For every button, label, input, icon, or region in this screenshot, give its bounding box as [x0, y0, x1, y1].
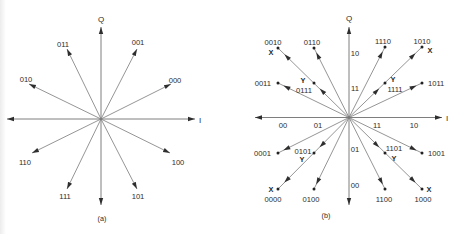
point-marker: X: [269, 185, 274, 194]
point-1001: [421, 152, 424, 155]
point-marker: Y: [392, 154, 397, 163]
q-axis-gray-code: 10: [351, 49, 359, 58]
q-axis-label: Q: [98, 15, 104, 24]
symbol-label: 100: [172, 158, 185, 167]
i-axis-gray-code: 10: [410, 121, 418, 130]
constellation-figure: Q I 000 001 011 010 110 111 101 100 (a): [0, 0, 469, 234]
point-label: 1010: [414, 37, 431, 46]
symbol-label: 001: [132, 38, 145, 47]
point-0001: [277, 152, 280, 155]
vector-110: [32, 119, 101, 153]
i-axis-label: I: [199, 116, 201, 125]
point-label: 1100: [376, 195, 392, 204]
point-1100: [384, 188, 387, 191]
symbol-label: 110: [19, 158, 31, 167]
symbol-label: 111: [59, 192, 71, 201]
point-label: 1011: [428, 79, 444, 88]
point-label: 1001: [428, 149, 445, 158]
point-label: 1000: [415, 195, 432, 204]
panel-a-axes: [7, 27, 195, 205]
arrowhead-icon: [378, 177, 385, 185]
panel-a-caption: (a): [98, 214, 107, 223]
q-axis-label: Q: [346, 14, 352, 23]
i-axis-gray-code: 11: [373, 121, 381, 130]
arrowhead-icon: [314, 177, 321, 185]
point-1000: [421, 188, 424, 191]
vector-100: [101, 119, 170, 153]
vector-010: [29, 84, 101, 119]
point-label: 1111: [387, 85, 402, 94]
q-axis-gray-code: 11: [351, 84, 359, 93]
panel-b-16qam-constellation: Q I 00 01 11 10 10 11 01 00 0010 X 0110 …: [254, 14, 448, 220]
point-0011: [277, 82, 280, 85]
point-marker: Y: [391, 75, 396, 84]
point-marker: X: [428, 46, 433, 55]
panel-a-8psk-constellation: Q I 000 001 011 010 110 111 101 100 (a): [7, 15, 201, 223]
i-axis-gray-code: 00: [279, 121, 287, 130]
symbol-label: 010: [20, 75, 33, 84]
point-label: 0111: [296, 86, 312, 95]
point-label: 0010: [265, 38, 282, 47]
point-label: 1101: [386, 144, 402, 153]
vector-000: [101, 84, 171, 119]
point-label: 0001: [254, 149, 271, 158]
point-label: 0011: [255, 79, 271, 88]
point-label: 0110: [304, 38, 320, 47]
point-0101: [313, 152, 316, 155]
vector-111: [67, 119, 101, 189]
panel-b-caption: (b): [322, 211, 331, 220]
point-1111: [384, 82, 387, 85]
point-0111: [313, 82, 316, 85]
point-1011: [421, 82, 424, 85]
arrowhead-icon: [314, 52, 321, 60]
point-marker: Y: [301, 76, 306, 85]
point-0100: [313, 188, 316, 191]
point-marker: X: [269, 48, 274, 57]
symbol-label: 011: [57, 40, 69, 49]
symbol-label: 000: [169, 76, 182, 85]
vector-101: [101, 119, 137, 189]
q-axis-gray-code: 01: [351, 145, 359, 154]
arrowhead-icon: [282, 84, 290, 91]
arrowhead-icon: [378, 50, 385, 58]
q-axis-gray-code: 00: [351, 181, 359, 190]
point-marker: Y: [300, 155, 305, 164]
arrowhead-icon: [409, 145, 417, 152]
point-0000: [277, 188, 280, 191]
symbol-label: 101: [132, 192, 145, 201]
panel-b-symbol-vectors: [278, 47, 422, 189]
arrowhead-icon: [409, 84, 417, 91]
point-label: 0100: [303, 195, 320, 204]
i-axis-label: I: [446, 114, 448, 123]
i-axis-gray-code: 01: [314, 121, 322, 130]
point-label: 0000: [265, 195, 282, 204]
vector-001: [101, 49, 137, 119]
arrowhead-icon: [282, 145, 290, 152]
point-marker: X: [427, 185, 432, 194]
vector-011: [67, 49, 101, 119]
point-label: 1110: [375, 37, 391, 46]
